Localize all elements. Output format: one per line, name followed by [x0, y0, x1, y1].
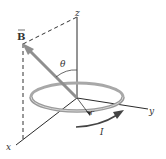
- b-projection-dashed-top: [23, 17, 77, 44]
- current-loop-diagram: z y x B θ r I: [0, 0, 166, 159]
- y-axis-label: y: [148, 106, 155, 116]
- current-label: I: [99, 127, 104, 137]
- x-axis-label: x: [6, 142, 11, 152]
- field-label: B: [17, 31, 25, 42]
- x-axis: [16, 98, 77, 145]
- current-loop-front: [31, 97, 123, 111]
- current-arrowhead-icon: [113, 110, 124, 119]
- current-arrow: [76, 115, 117, 127]
- current-loop-highlight: [31, 97, 123, 111]
- z-axis-label: z: [74, 8, 80, 18]
- theta-arc: [56, 70, 77, 77]
- theta-label: θ: [60, 59, 66, 69]
